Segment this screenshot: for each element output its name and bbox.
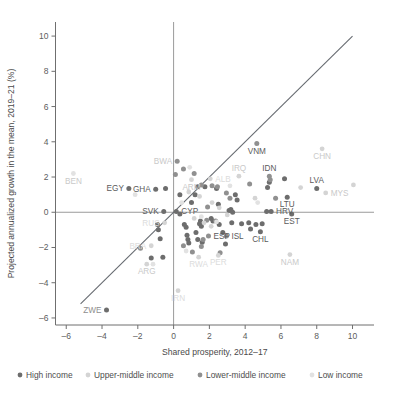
data-point [210,183,215,188]
y-tick-label: 6 [44,102,49,112]
data-point [173,172,178,177]
data-point [273,196,278,201]
x-tick-label: –4 [97,331,107,341]
data-point [237,174,242,179]
data-point [214,220,219,225]
point-label: ZWE [83,306,102,315]
data-point [239,221,244,226]
data-point [149,256,154,261]
legend-label-upper_middle_income[interactable]: Upper-middle income [94,370,174,380]
data-point [258,229,263,234]
data-point [176,288,181,293]
y-tick-label: 4 [44,137,49,147]
x-tick-label: 2 [207,331,212,341]
data-point [158,236,163,241]
data-point [254,141,259,146]
data-point [260,221,265,226]
y-tick-label: 2 [44,172,49,182]
point-label: BWA [154,157,173,166]
data-point [186,241,191,246]
legend-label-high_income[interactable]: High income [26,370,73,380]
legend-label-low_income[interactable]: Low income [318,370,363,380]
data-point [233,192,238,197]
legend-marker-lower_middle_income [198,373,203,378]
data-point [179,200,184,205]
point-label: IRQ [232,164,247,173]
legend-label-lower_middle_income[interactable]: Lower-middle income [206,370,286,380]
x-tick-label: 0 [171,331,176,341]
data-point [202,220,207,225]
legend-marker-high_income [18,373,23,378]
data-point [184,225,189,230]
axes-group [52,22,375,329]
x-tick-label: 6 [279,331,284,341]
data-point [298,185,303,190]
zero-reference-lines [56,22,375,325]
data-point [216,253,221,258]
point-label: LVA [310,176,325,185]
point-labels-group: EGYGHASVKCYPCHLHRVLTUESTLVAZWEBWAVNMIDNE… [65,147,349,315]
point-label: RUS [142,219,160,228]
point-label: CHN [313,152,331,161]
x-tick-label: –2 [133,331,143,341]
data-point [269,209,274,214]
data-point [282,176,287,181]
data-point [288,252,293,257]
data-point [253,222,258,227]
data-point [153,187,158,192]
chart-canvas: EGYGHASVKCYPCHLHRVLTUESTLVAZWEBWAVNMIDNE… [0,0,394,393]
data-point [247,182,252,187]
data-point [235,197,240,202]
y-axis-title: Projected annualized growth in the mean,… [6,69,16,279]
data-point [208,176,213,181]
data-point [320,146,325,151]
data-point [215,184,220,189]
data-point [187,165,192,170]
data-point [126,186,131,191]
data-point [323,190,328,195]
data-point [229,220,234,225]
data-point [189,200,194,205]
data-point [246,220,251,225]
data-point [314,186,319,191]
point-label: VNM [248,147,266,156]
point-label: IRN [171,294,185,303]
y-tick-label: –6 [39,313,49,323]
data-point [199,214,204,219]
data-point [144,262,149,267]
data-point [228,183,233,188]
x-tick-label: 4 [243,331,248,341]
data-point [190,249,195,254]
data-point [185,233,190,238]
point-label: EST [284,217,300,226]
legend-marker-upper_middle_income [86,373,91,378]
data-point [210,200,215,205]
data-point [255,200,260,205]
y-tick-label: –4 [39,278,49,288]
point-label: LTU [280,200,295,209]
data-point [248,226,253,231]
data-point [265,185,270,190]
data-point [209,224,214,229]
data-point [253,196,258,201]
data-points-group [71,141,356,312]
data-point [156,227,161,232]
point-label: SVK [142,207,159,216]
point-label: CYP [181,207,198,216]
x-tick-label: 10 [348,331,358,341]
x-axis-title: Shared prosperity, 2012–17 [162,347,268,357]
data-point [197,194,202,199]
data-point [193,192,198,197]
data-point [201,237,206,242]
point-label: PER [210,258,227,267]
point-label: BEN [65,177,82,186]
data-point [104,308,109,313]
point-label: GHA [133,185,151,194]
data-point [224,190,229,195]
data-point [199,244,204,249]
point-label: NAM [281,258,299,267]
data-point [181,243,186,248]
data-point [177,192,182,197]
point-label: BRA [129,242,146,251]
data-point [181,167,186,172]
